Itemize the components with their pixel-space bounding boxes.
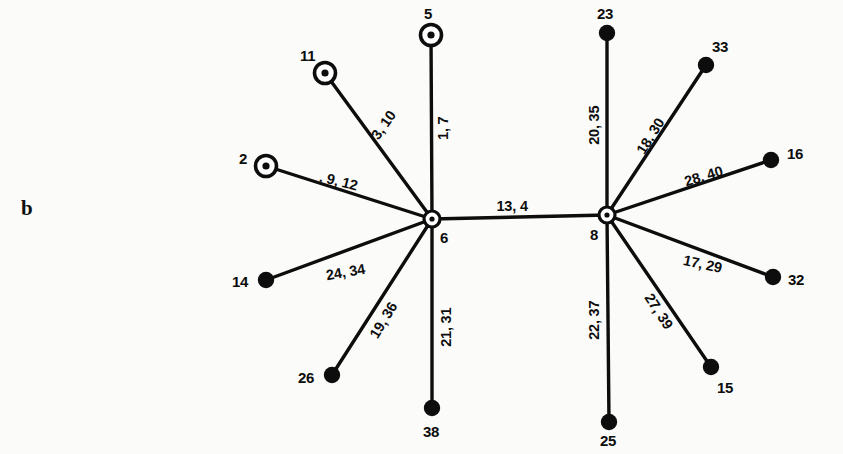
node-dot xyxy=(427,31,434,38)
graph-edge xyxy=(332,219,432,375)
node-label-38: 38 xyxy=(423,424,439,439)
node-dot xyxy=(262,162,269,169)
node-disc xyxy=(765,269,781,285)
graph-node[interactable] xyxy=(599,25,615,41)
node-disc xyxy=(698,57,714,73)
graph-edge xyxy=(432,215,607,219)
node-label-11: 11 xyxy=(300,48,315,63)
node-disc xyxy=(258,272,274,288)
edge-label-6-8: 13, 4 xyxy=(497,199,528,214)
graph-node[interactable] xyxy=(601,414,617,430)
node-label-26: 26 xyxy=(298,370,314,385)
graph-node[interactable] xyxy=(315,63,336,84)
graph-node[interactable] xyxy=(256,156,277,177)
node-dot xyxy=(321,69,328,76)
edge-label-6-38: 21, 31 xyxy=(439,307,454,346)
node-label-8: 8 xyxy=(590,227,598,242)
node-disc xyxy=(601,414,617,430)
node-disc xyxy=(324,367,340,383)
graph-node[interactable] xyxy=(258,272,274,288)
graph-edge xyxy=(607,215,711,367)
node-dot xyxy=(429,216,434,221)
graph-node[interactable] xyxy=(324,367,340,383)
node-label-16: 16 xyxy=(787,146,803,161)
figure-panel-b: b 511268142638233316321525 1, 73, 10. 9,… xyxy=(0,0,843,454)
node-disc xyxy=(763,152,779,168)
node-disc xyxy=(424,400,440,416)
edge-label-8-25: 22, 37 xyxy=(587,300,602,339)
graph-node[interactable] xyxy=(765,269,781,285)
node-label-33: 33 xyxy=(712,39,728,54)
graph-edge xyxy=(266,166,432,219)
graph-node[interactable] xyxy=(703,359,719,375)
graph-node[interactable] xyxy=(424,211,440,227)
node-label-5: 5 xyxy=(424,6,432,21)
node-label-15: 15 xyxy=(717,380,733,395)
node-label-2: 2 xyxy=(239,151,247,166)
graph-node[interactable] xyxy=(763,152,779,168)
graph-edge xyxy=(607,215,609,422)
node-disc xyxy=(703,359,719,375)
node-disc xyxy=(599,25,615,41)
node-dot xyxy=(604,212,609,217)
graph-node[interactable] xyxy=(698,57,714,73)
edge-label-6-5: 1, 7 xyxy=(436,116,451,139)
node-label-23: 23 xyxy=(597,6,613,21)
graph-node[interactable] xyxy=(599,207,615,223)
node-label-14: 14 xyxy=(232,274,248,289)
node-label-32: 32 xyxy=(788,272,804,287)
graph-edge xyxy=(325,73,432,219)
graph-node[interactable] xyxy=(424,400,440,416)
graph-edge xyxy=(431,35,432,219)
edge-label-8-23: 20, 35 xyxy=(587,105,602,144)
edge-layer xyxy=(266,33,773,422)
node-label-6: 6 xyxy=(440,230,448,245)
node-label-25: 25 xyxy=(600,433,616,448)
graph-node[interactable] xyxy=(421,25,442,46)
